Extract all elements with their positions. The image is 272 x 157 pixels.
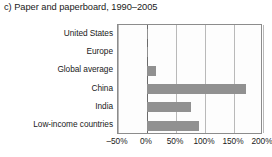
plot-area — [117, 24, 262, 134]
x-tick-label: 100% — [193, 136, 214, 146]
bar-row — [118, 43, 261, 61]
category-label: Low-income countries — [0, 119, 113, 129]
gridline-200 — [263, 25, 264, 133]
x-tick-label: 50% — [167, 136, 183, 146]
bar-row — [118, 62, 261, 80]
y-axis-category-labels: United States Europe Global average Chin… — [0, 24, 113, 134]
x-tick-label: 200% — [251, 136, 272, 146]
chart-title: c) Paper and paperboard, 1990–2005 — [4, 2, 157, 12]
x-tick-label: –50% — [106, 136, 127, 146]
bar — [147, 102, 191, 112]
bar-row — [118, 80, 261, 98]
bar — [147, 121, 199, 131]
bar — [147, 29, 148, 39]
x-axis-tick-labels: –50%0%50%100%150%200% — [0, 136, 272, 150]
bar-row — [118, 25, 261, 43]
category-label: Global average — [0, 64, 113, 74]
bar-rows — [118, 25, 261, 133]
x-tick-label: 150% — [222, 136, 243, 146]
category-label: United States — [0, 28, 113, 38]
category-label: China — [0, 83, 113, 93]
bar-row — [118, 117, 261, 135]
figure: c) Paper and paperboard, 1990–2005 Unite… — [0, 0, 272, 157]
bar — [147, 84, 246, 94]
bar — [147, 66, 156, 76]
bar — [147, 47, 148, 57]
category-label: India — [0, 101, 113, 111]
bar-row — [118, 98, 261, 116]
x-tick-label: 0% — [140, 136, 152, 146]
category-label: Europe — [0, 46, 113, 56]
